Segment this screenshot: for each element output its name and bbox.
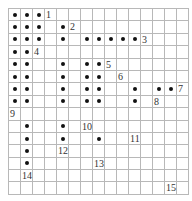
grid-cell[interactable] [177,108,189,120]
grid-cell[interactable] [117,59,129,71]
grid-cell[interactable] [9,59,21,71]
grid-cell[interactable] [9,182,21,194]
grid-cell[interactable]: 12 [57,145,69,157]
grid-cell[interactable] [45,108,57,120]
grid-cell[interactable] [153,71,165,83]
grid-cell[interactable] [81,34,93,46]
grid-cell[interactable] [81,9,93,21]
grid-cell[interactable] [129,83,141,95]
grid-cell[interactable] [105,158,117,170]
grid-cell[interactable] [153,133,165,145]
grid-cell[interactable] [33,59,45,71]
grid-cell[interactable] [141,108,153,120]
grid-cell[interactable] [105,182,117,194]
grid-cell[interactable] [81,108,93,120]
grid-cell[interactable] [129,170,141,182]
grid-cell[interactable] [177,158,189,170]
grid-cell[interactable] [141,121,153,133]
grid-cell[interactable] [153,46,165,58]
grid-cell[interactable] [165,71,177,83]
grid-cell[interactable]: 7 [177,83,189,95]
grid-cell[interactable] [57,59,69,71]
grid-cell[interactable] [105,145,117,157]
grid-cell[interactable] [57,182,69,194]
grid-cell[interactable] [45,133,57,145]
grid-cell[interactable] [93,21,105,33]
grid-cell[interactable] [105,21,117,33]
grid-cell[interactable] [21,71,33,83]
grid-cell[interactable] [93,133,105,145]
grid-cell[interactable] [117,158,129,170]
grid-cell[interactable] [81,158,93,170]
grid-cell[interactable] [57,9,69,21]
grid-cell[interactable] [141,9,153,21]
grid-cell[interactable] [129,9,141,21]
grid-cell[interactable]: 4 [33,46,45,58]
grid-cell[interactable] [21,9,33,21]
grid-cell[interactable] [81,170,93,182]
grid-cell[interactable] [105,83,117,95]
grid-cell[interactable] [9,96,21,108]
grid-cell[interactable] [9,46,21,58]
grid-cell[interactable] [177,182,189,194]
grid-cell[interactable] [165,21,177,33]
grid-cell[interactable] [21,121,33,133]
grid-cell[interactable] [45,83,57,95]
grid-cell[interactable] [21,21,33,33]
grid-cell[interactable] [57,108,69,120]
grid-cell[interactable] [69,158,81,170]
grid-cell[interactable]: 9 [9,108,21,120]
grid-cell[interactable] [93,71,105,83]
grid-cell[interactable] [33,9,45,21]
grid-cell[interactable] [81,96,93,108]
grid-cell[interactable] [57,170,69,182]
grid-cell[interactable] [33,34,45,46]
grid-cell[interactable] [129,158,141,170]
grid-cell[interactable] [129,46,141,58]
grid-cell[interactable] [177,133,189,145]
grid-cell[interactable] [117,182,129,194]
grid-cell[interactable] [177,9,189,21]
grid-cell[interactable] [141,133,153,145]
grid-cell[interactable] [9,9,21,21]
grid-cell[interactable] [45,59,57,71]
grid-cell[interactable] [9,170,21,182]
grid-cell[interactable] [177,96,189,108]
grid-cell[interactable] [141,145,153,157]
grid-cell[interactable] [177,46,189,58]
grid-cell[interactable] [117,108,129,120]
grid-cell[interactable] [93,59,105,71]
grid-cell[interactable] [93,121,105,133]
grid-cell[interactable] [117,145,129,157]
grid-cell[interactable] [57,96,69,108]
grid-cell[interactable] [9,83,21,95]
grid-cell[interactable] [117,170,129,182]
grid-cell[interactable] [45,158,57,170]
grid-cell[interactable] [21,133,33,145]
grid-cell[interactable] [141,170,153,182]
grid-cell[interactable] [81,83,93,95]
grid-cell[interactable] [45,21,57,33]
grid-cell[interactable] [105,9,117,21]
grid-cell[interactable] [69,71,81,83]
grid-cell[interactable] [21,145,33,157]
grid-cell[interactable] [165,121,177,133]
grid-cell[interactable] [165,34,177,46]
grid-cell[interactable] [93,46,105,58]
grid-cell[interactable] [81,133,93,145]
grid-cell[interactable] [105,133,117,145]
grid-cell[interactable]: 3 [141,34,153,46]
grid-cell[interactable] [33,133,45,145]
grid-cell[interactable] [33,170,45,182]
grid-cell[interactable] [57,83,69,95]
grid-cell[interactable]: 1 [45,9,57,21]
grid-cell[interactable] [165,9,177,21]
grid-cell[interactable] [57,34,69,46]
grid-cell[interactable] [69,108,81,120]
grid-cell[interactable]: 15 [165,182,177,194]
grid-cell[interactable] [165,46,177,58]
grid-cell[interactable] [129,121,141,133]
grid-cell[interactable] [105,34,117,46]
grid-cell[interactable] [21,34,33,46]
grid-cell[interactable] [105,96,117,108]
